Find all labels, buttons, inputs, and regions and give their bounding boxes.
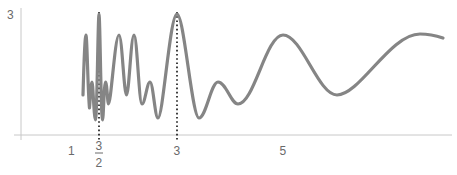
- line-chart: 3 1 3 2 3 5: [0, 0, 457, 175]
- x-tick-label-5: 5: [280, 144, 287, 158]
- data-series-curve: [83, 14, 443, 120]
- x-tick-label-1: 1: [68, 144, 75, 158]
- y-tick-label-3: 3: [7, 8, 14, 22]
- x-tick-label-3-2-numerator: 3: [96, 139, 103, 153]
- x-tick-label-3: 3: [174, 144, 181, 158]
- x-tick-label-3-2-denominator: 2: [96, 156, 103, 170]
